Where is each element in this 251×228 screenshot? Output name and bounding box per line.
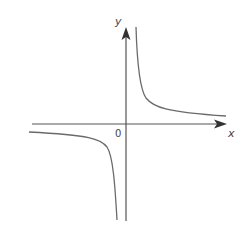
x-axis xyxy=(32,120,227,129)
curve-branch-upper-right xyxy=(136,27,226,116)
y-axis-label: y xyxy=(114,15,122,28)
curve-branch-lower-left xyxy=(29,132,117,220)
x-axis-label: x xyxy=(227,127,235,140)
hyperbola-graph: y x 0 xyxy=(0,0,251,228)
origin-label: 0 xyxy=(115,128,121,139)
graph-canvas: y x 0 xyxy=(0,0,251,228)
